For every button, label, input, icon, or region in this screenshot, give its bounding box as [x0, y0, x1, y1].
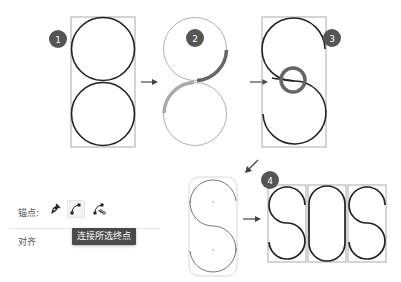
bottom-circle: [72, 83, 135, 146]
connect-endpoints-button[interactable]: [67, 200, 85, 218]
step-3-figure: 3: [262, 17, 341, 147]
step-badge-1-number: 1: [55, 35, 61, 45]
anchor-control-panel: 锚点: 对齐 连接所选终点: [0, 186, 165, 256]
top-circle: [72, 18, 135, 81]
bottom-arc-highlight: [164, 83, 194, 114]
step-1-figure: 1: [49, 17, 135, 147]
step-badge-3-number: 3: [329, 34, 335, 44]
connect-endpoints-icon: [69, 202, 83, 216]
letter-s-path: [269, 187, 305, 259]
step-badge-2-number: 2: [192, 34, 198, 44]
s-path-tangent: [272, 78, 294, 81]
rounded-frame: [189, 177, 237, 276]
arrow-right-icon: [141, 79, 158, 85]
s-outline-figure: [189, 177, 237, 276]
convert-anchor-pen-icon: [48, 202, 62, 216]
letter-o-frame: [308, 185, 346, 262]
step-4-figure: 4: [261, 171, 386, 262]
connect-endpoints-tooltip: 连接所选终点: [72, 228, 136, 245]
align-label: 对齐: [18, 235, 36, 248]
arrow-right-icon: [243, 216, 261, 222]
thin-s-path: [190, 180, 236, 272]
anchor-label: 锚点:: [18, 206, 39, 219]
step-badge-4-number: 4: [267, 176, 273, 186]
bounding-box: [262, 17, 326, 147]
convert-anchor-button[interactable]: [46, 200, 64, 218]
cut-path-at-anchor-icon: [92, 202, 106, 216]
arrow-right-icon: [250, 79, 268, 85]
letter-o-path: [309, 186, 345, 261]
letter-s2-path: [349, 187, 385, 259]
top-arc-highlight: [197, 50, 227, 81]
cut-path-button[interactable]: [90, 200, 108, 218]
step-2-figure: 2: [164, 18, 227, 146]
arrow-down-left-icon: [245, 160, 258, 173]
